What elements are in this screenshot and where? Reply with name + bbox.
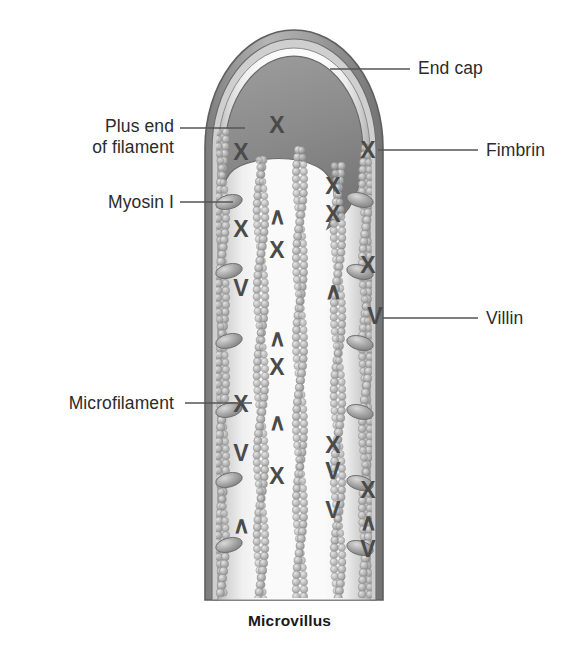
fimbrin-crosslink-x: X xyxy=(360,252,376,278)
fimbrin-crosslink-x: X xyxy=(325,173,341,199)
villin-crosslink-v: ∧ xyxy=(269,325,286,351)
label-fimbrin: Fimbrin xyxy=(486,140,545,161)
fimbrin-crosslink-x: X xyxy=(269,112,285,138)
fimbrin-crosslink-x: X xyxy=(325,432,341,458)
fimbrin-crosslink-x: X xyxy=(233,216,249,242)
label-myosin-i: Myosin I xyxy=(46,192,174,213)
label-end-cap: End cap xyxy=(418,58,483,79)
villin-crosslink-v: ∧ xyxy=(269,203,286,229)
label-plus-end-of-filament: Plus end of filament xyxy=(46,116,174,158)
fimbrin-crosslink-x: X xyxy=(269,463,285,489)
figure-caption: Microvillus xyxy=(248,612,331,630)
fimbrin-crosslink-x: X xyxy=(269,237,285,263)
villin-crosslink-v: V xyxy=(233,440,249,466)
villin-crosslink-v: V xyxy=(233,275,249,301)
villin-crosslink-v: ∧ xyxy=(325,278,342,304)
villin-crosslink-v: V xyxy=(360,536,376,562)
label-microfilament: Microfilament xyxy=(34,393,174,414)
villin-crosslink-v: ∧ xyxy=(233,512,250,538)
fimbrin-crosslink-x: X xyxy=(269,354,285,380)
villin-crosslink-v: ∧ xyxy=(269,409,286,435)
fimbrin-crosslink-x: X xyxy=(325,201,341,227)
figure-canvas: XXXXX∧XXVX∧V∧XX∧XVVXVX∧∧V Plus end of fi… xyxy=(0,0,588,648)
label-villin: Villin xyxy=(486,308,523,329)
fimbrin-crosslink-x: X xyxy=(233,139,249,165)
villin-crosslink-v: V xyxy=(325,497,341,523)
villin-crosslink-v: V xyxy=(325,458,341,484)
fimbrin-crosslink-x: X xyxy=(360,137,376,163)
fimbrin-crosslink-x: X xyxy=(360,477,376,503)
fimbrin-crosslink-x: X xyxy=(233,391,249,417)
villin-crosslink-v: ∧ xyxy=(360,509,377,535)
villin-crosslink-v: V xyxy=(367,303,383,329)
